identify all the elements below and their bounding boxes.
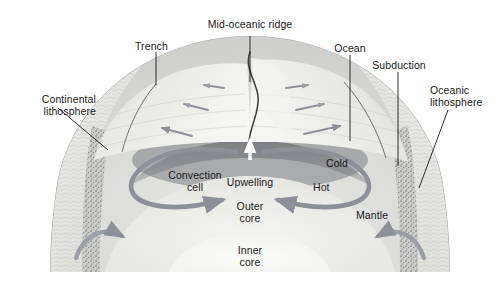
label-trench: Trench <box>135 40 168 52</box>
label-subduction: Subduction <box>363 59 435 71</box>
label-mantle: Mantle <box>356 209 388 221</box>
label-hot: Hot <box>313 181 330 193</box>
label-upwelling: Upwelling <box>215 176 285 188</box>
label-continental-lithosphere: Continental lithosphere <box>8 93 96 117</box>
label-mid-oceanic-ridge: Mid-oceanic ridge <box>185 18 315 30</box>
label-outer-core: Outer core <box>222 200 278 224</box>
diagram-canvas: Trench Mid-oceanic ridge Ocean Subductio… <box>0 0 500 287</box>
label-oceanic-lithosphere: Oceanic lithosphere <box>430 84 482 108</box>
label-ocean: Ocean <box>325 42 375 54</box>
label-inner-core: Inner core <box>222 244 278 268</box>
label-cold: Cold <box>326 157 348 169</box>
